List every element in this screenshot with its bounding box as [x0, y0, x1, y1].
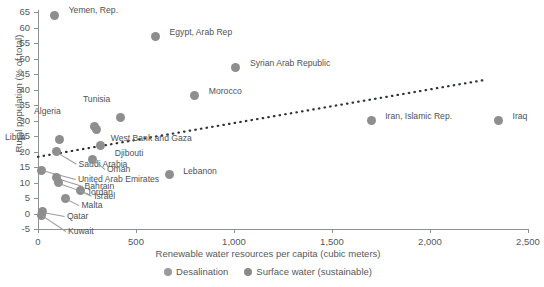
legend-label: Surface water (sustainable): [256, 266, 372, 277]
y-tick-mark: [34, 43, 38, 44]
x-tick-label: 500: [106, 237, 166, 246]
y-tick-mark: [34, 74, 38, 75]
legend-marker-icon: [164, 268, 172, 276]
chart-legend: DesalinationSurface water (sustainable): [0, 266, 536, 277]
x-tick-mark: [430, 229, 431, 233]
x-tick-label: 0: [8, 237, 68, 246]
data-point-label: Morocco: [209, 87, 242, 96]
y-tick-label: 65: [4, 7, 30, 16]
legend-label: Desalination: [176, 266, 228, 277]
label-leader-line: [43, 212, 65, 217]
data-point-label: Tunisia: [0, 95, 110, 104]
x-tick-label: 2,500: [498, 237, 544, 246]
y-tick-mark: [34, 183, 38, 184]
x-tick-mark: [234, 229, 235, 233]
data-point-label: Libya: [0, 133, 26, 142]
x-axis-line: [38, 229, 528, 230]
x-axis-title: Renewable water resources per capita (cu…: [0, 248, 536, 259]
x-tick-label: 1,500: [302, 237, 362, 246]
x-tick-label: 2,000: [400, 237, 460, 246]
y-tick-mark: [34, 152, 38, 153]
y-tick-label: 55: [4, 38, 30, 47]
y-tick-mark: [34, 12, 38, 13]
data-point-label: Syrian Arab Republic: [250, 59, 330, 68]
y-tick-label: 20: [4, 147, 30, 156]
y-tick-label: 50: [4, 54, 30, 63]
data-point-label: Yemen, Rep.: [69, 6, 118, 15]
y-tick-mark: [34, 198, 38, 199]
data-point[interactable]: [231, 63, 240, 72]
data-point-label: Lebanon: [183, 167, 216, 176]
data-point-label: Qatar: [67, 212, 89, 221]
x-tick-mark: [332, 229, 333, 233]
y-tick-label: 10: [4, 178, 30, 187]
data-point[interactable]: [367, 116, 376, 125]
legend-item[interactable]: Surface water (sustainable): [244, 266, 372, 277]
y-tick-mark: [34, 136, 38, 137]
y-tick-label: 5: [4, 193, 30, 202]
data-point-label: Djibouti: [115, 149, 144, 158]
x-tick-mark: [38, 229, 39, 233]
data-point[interactable]: [55, 135, 64, 144]
data-point-label: Iraq: [513, 112, 528, 121]
x-tick-mark: [528, 229, 529, 233]
data-point[interactable]: [96, 141, 105, 150]
data-point-label: Egypt, Arab Rep: [170, 28, 233, 37]
y-tick-label: -5: [4, 224, 30, 233]
data-point[interactable]: [151, 32, 160, 41]
data-point-label: Oman: [107, 165, 130, 174]
label-leader-line: [56, 152, 77, 165]
y-axis-line: [38, 10, 39, 230]
y-tick-mark: [34, 121, 38, 122]
data-point[interactable]: [494, 116, 503, 125]
data-point[interactable]: [116, 113, 125, 122]
data-point[interactable]: [92, 125, 101, 134]
data-point[interactable]: [50, 11, 59, 20]
y-tick-mark: [34, 90, 38, 91]
y-tick-label: 30: [4, 116, 30, 125]
y-tick-mark: [34, 59, 38, 60]
data-point[interactable]: [165, 170, 174, 179]
y-tick-label: 0: [4, 209, 30, 218]
y-tick-label: 15: [4, 162, 30, 171]
data-point[interactable]: [190, 91, 199, 100]
legend-marker-icon: [244, 268, 252, 276]
x-tick-mark: [136, 229, 137, 233]
data-point-label: Iran, Islamic Rep.: [385, 112, 452, 121]
data-point-label: West Bank and Gaza: [111, 134, 192, 143]
legend-item[interactable]: Desalination: [164, 266, 228, 277]
y-tick-label: 40: [4, 85, 30, 94]
y-tick-label: 45: [4, 69, 30, 78]
data-point-label: Malta: [81, 201, 102, 210]
y-tick-label: 60: [4, 23, 30, 32]
y-tick-mark: [34, 28, 38, 29]
data-point-label: Kuwait: [68, 227, 94, 236]
data-point-label: Algeria: [0, 107, 61, 116]
x-tick-label: 1,000: [204, 237, 264, 246]
